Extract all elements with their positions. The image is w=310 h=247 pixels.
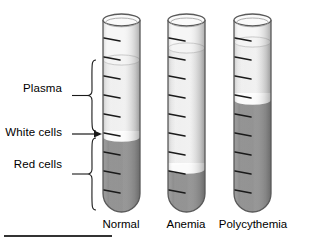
tube-polycythemia <box>234 14 271 212</box>
red-cells-brace <box>87 138 96 210</box>
callout-label-red-cells: Red cells <box>4 158 62 170</box>
tube-shading-polycythemia <box>234 20 271 212</box>
hematocrit-diagram: PlasmaWhite cellsRed cells NormalAnemiaP… <box>0 0 310 247</box>
callout-group <box>72 60 102 210</box>
tube-normal <box>103 14 140 212</box>
tube-label-polycythemia: Polycythemia <box>198 218 308 230</box>
plasma-brace <box>87 60 96 131</box>
callout-label-plasma: Plasma <box>4 82 62 94</box>
tube-anemia <box>168 14 205 212</box>
callout-label-white-cells: White cells <box>4 126 62 138</box>
tube-shading-normal <box>103 20 140 212</box>
tube-shading-anemia <box>168 20 205 212</box>
tubes-group <box>103 14 271 212</box>
diagram-canvas <box>0 0 310 247</box>
white-cells-arrowhead <box>94 131 102 138</box>
